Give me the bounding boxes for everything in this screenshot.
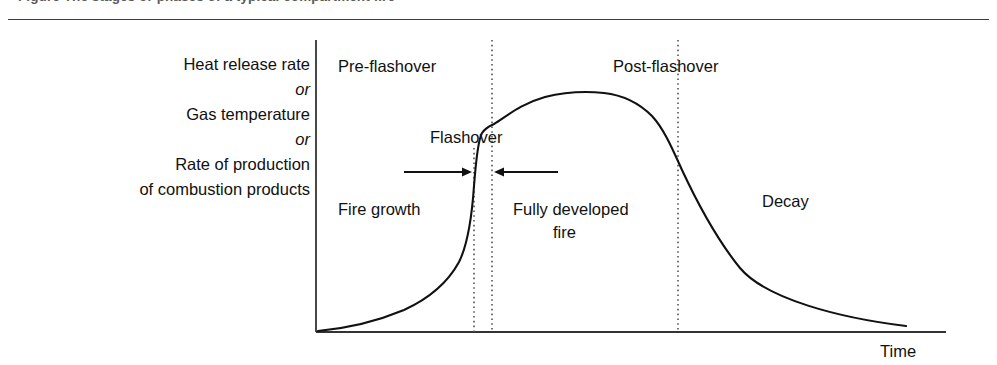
arrow-left-to-flashover [404, 168, 472, 177]
label-decay: Decay [762, 192, 810, 210]
label-flashover: Flashover [430, 128, 503, 146]
figure-container: Figure The stages or phases of a typical… [0, 0, 997, 365]
label-post-flashover: Post-flashover [613, 57, 719, 75]
label-pre-flashover: Pre-flashover [338, 57, 437, 75]
arrow-right-to-flashover [494, 168, 558, 177]
fire-growth-curve-plot: Pre-flashover Post-flashover Flashover F… [0, 0, 997, 365]
x-axis-title: Time [880, 342, 916, 360]
label-fire-growth: Fire growth [338, 200, 421, 218]
label-fully-developed-fire-line1: Fully developed [513, 200, 629, 218]
label-fully-developed-fire-line2: fire [553, 223, 576, 241]
